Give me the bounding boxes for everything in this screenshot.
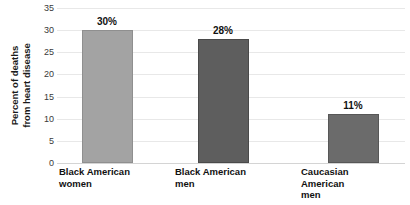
bars-layer: 30%28%11% (57, 8, 405, 163)
bar-value-label: 11% (343, 100, 362, 111)
bar[interactable]: 30% (82, 30, 133, 163)
x-axis-category-label-line: Black American (175, 166, 285, 178)
y-axis-title-line-1: Percent of deaths (9, 43, 21, 127)
y-axis-tick-label: 15 (36, 92, 54, 101)
x-axis-category-labels: Black AmericanwomenBlack AmericanmenCauc… (57, 166, 405, 205)
x-axis-category-label-line: Caucasian (301, 166, 410, 178)
x-axis-category-label: Black Americanmen (175, 166, 285, 189)
bar-chart: Percent of deaths from heart disease 353… (0, 0, 410, 205)
x-axis-category-label-line: men (175, 178, 285, 190)
x-axis-category-label-line: Black American (59, 166, 169, 178)
x-axis-category-label-line: men (301, 189, 410, 201)
y-axis-tick-label: 5 (36, 136, 54, 145)
y-axis-tick-label: 35 (36, 4, 54, 13)
x-axis-category-label: Black Americanwomen (59, 166, 169, 189)
y-axis-title: Percent of deaths from heart disease (0, 0, 40, 170)
plot-area: 30%28%11% (57, 8, 405, 163)
y-axis-tick-labels: 35302520151050 (36, 0, 54, 170)
y-axis-tick-label: 20 (36, 70, 54, 79)
bar-value-label: 30% (97, 16, 117, 27)
x-axis-category-label-line: women (59, 178, 169, 190)
bar[interactable]: 28% (198, 39, 249, 163)
y-axis-tick-label: 30 (36, 26, 54, 35)
y-axis-tick-label: 0 (36, 159, 54, 168)
y-axis-title-line-2: from heart disease (20, 43, 32, 127)
axis-baseline (57, 163, 405, 164)
y-axis-tick-label: 25 (36, 48, 54, 57)
x-axis-category-label: CaucasianAmericanmen (301, 166, 410, 201)
y-axis-tick-label: 10 (36, 114, 54, 123)
x-axis-category-label-line: American (301, 178, 410, 190)
bar-value-label: 28% (213, 25, 233, 36)
bar[interactable]: 11% (328, 114, 379, 163)
